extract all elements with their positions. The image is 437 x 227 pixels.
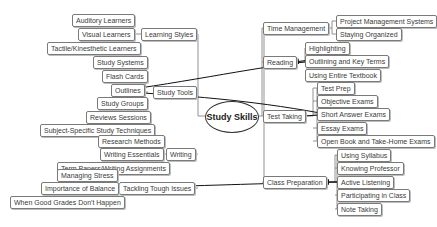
node-managing-stress[interactable]: Managing Stress — [57, 169, 118, 182]
branch-reading[interactable]: Reading — [263, 56, 297, 69]
branch-writing[interactable]: Writing — [166, 148, 196, 161]
node-open-book-take-home-exams[interactable]: Open Book and Take-Home Exams — [317, 135, 435, 148]
node-outlines[interactable]: Outlines — [111, 84, 145, 97]
branch-class-preparation[interactable]: Class Preparation — [263, 176, 327, 189]
node-research-methods[interactable]: Research Methods — [98, 135, 165, 148]
node-study-groups[interactable]: Study Groups — [97, 97, 148, 110]
node-test-prep[interactable]: Test Prep — [317, 82, 355, 95]
node-when-good-grades-dont-happen[interactable]: When Good Grades Don't Happen — [10, 196, 125, 209]
node-active-listening[interactable]: Active Listening — [337, 176, 394, 189]
node-outlining-and-key-terms[interactable]: Outlining and Key Terms — [305, 55, 389, 68]
node-note-taking[interactable]: Note Taking — [337, 203, 382, 216]
node-using-syllabus[interactable]: Using Syllabus — [337, 149, 391, 162]
node-auditory-learners[interactable]: Auditory Learners — [72, 14, 135, 27]
node-importance-of-balance[interactable]: Importance of Balance — [41, 182, 119, 195]
node-visual-learners[interactable]: Visual Learners — [78, 28, 135, 41]
node-writing-essentials[interactable]: Writing Essentials — [100, 148, 164, 161]
node-short-answer-exams[interactable]: Short Answer Exams — [317, 108, 390, 121]
node-reviews-sessions[interactable]: Reviews Sessions — [86, 111, 151, 124]
branch-test-taking[interactable]: Test Taking — [263, 110, 306, 123]
branch-learning-styles[interactable]: Learning Styles — [141, 28, 197, 41]
node-objective-exams[interactable]: Objective Exams — [317, 95, 378, 108]
branch-time-management[interactable]: Time Management — [263, 22, 329, 35]
node-staying-organized[interactable]: Staying Organized — [336, 28, 402, 41]
node-using-entire-textbook[interactable]: Using Entire Textbook — [305, 69, 381, 82]
node-highlighting[interactable]: Highlighting — [305, 42, 350, 55]
node-tactile-kinesthetic-learners[interactable]: Tactile/Kinesthetic Learners — [47, 42, 141, 55]
branch-study-tools[interactable]: Study Tools — [153, 86, 197, 99]
branch-tackling-tough-issues[interactable]: Tackling Tough Issues — [119, 182, 195, 195]
node-study-systems[interactable]: Study Systems — [93, 56, 148, 69]
node-knowing-professor[interactable]: Knowing Professor — [337, 162, 404, 175]
node-essay-exams[interactable]: Essay Exams — [317, 122, 367, 135]
central-topic[interactable]: Study Skills — [205, 101, 259, 133]
node-participating-in-class[interactable]: Participating in Class — [337, 189, 410, 202]
node-project-management-systems[interactable]: Project Management Systems — [336, 15, 437, 28]
node-flash-cards[interactable]: Flash Cards — [102, 70, 148, 83]
